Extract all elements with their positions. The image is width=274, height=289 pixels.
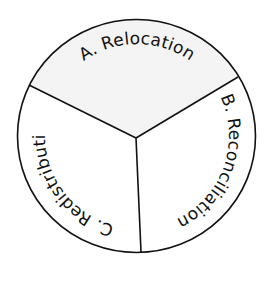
segmented-circle-diagram: A. Relocation B. Reconciliation C. Redis… [0, 0, 274, 289]
